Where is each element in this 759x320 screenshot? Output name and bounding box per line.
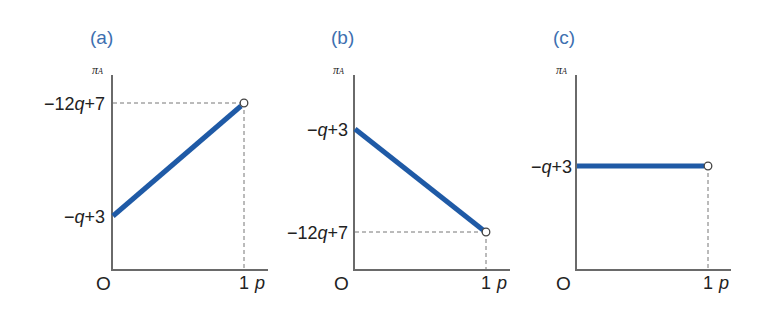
panel-c: (c) πA −q+3 O 1 p: [531, 27, 731, 294]
panel-a-open-endpoint: [240, 99, 248, 107]
panel-a-x-axis-label: p: [254, 273, 265, 293]
panel-b-open-endpoint: [482, 228, 490, 236]
panel-a-y-axis-label: πA: [92, 63, 103, 77]
panel-a-label-bottom: −q+3: [64, 207, 105, 227]
panel-a-label-top: −12q+7: [44, 94, 105, 114]
panel-b-x-tick-1: 1: [481, 273, 491, 293]
panel-b-curve: [355, 129, 483, 230]
panel-a-curve: [113, 106, 241, 216]
panel-b-label-bottom: −12q+7: [287, 223, 348, 243]
panel-b-label-top: −q+3: [307, 120, 348, 140]
figure: (a) πA −12q+7 −q+3 O 1 p (b) πA −q+3 −12…: [0, 0, 759, 320]
panel-c-x-axis-label: p: [718, 273, 729, 293]
panel-b: (b) πA −q+3 −12q+7 O 1 p: [287, 27, 510, 294]
panel-b-y-axis-label: πA: [333, 63, 344, 77]
panel-c-label-mid: −q+3: [531, 157, 572, 177]
panel-a-x-tick-1: 1: [239, 273, 249, 293]
panel-a-title: (a): [90, 27, 113, 48]
panel-b-origin-label: O: [334, 273, 349, 294]
panel-c-x-tick-1: 1: [703, 273, 713, 293]
panel-b-x-axis-label: p: [496, 273, 507, 293]
panel-c-open-endpoint: [704, 162, 712, 170]
panel-a: (a) πA −12q+7 −q+3 O 1 p: [44, 27, 268, 294]
panel-c-y-axis-label: πA: [556, 63, 567, 77]
panel-c-title: (c): [553, 27, 575, 48]
panel-c-origin-label: O: [556, 273, 571, 294]
panel-a-origin-label: O: [96, 273, 111, 294]
panel-b-title: (b): [331, 27, 354, 48]
